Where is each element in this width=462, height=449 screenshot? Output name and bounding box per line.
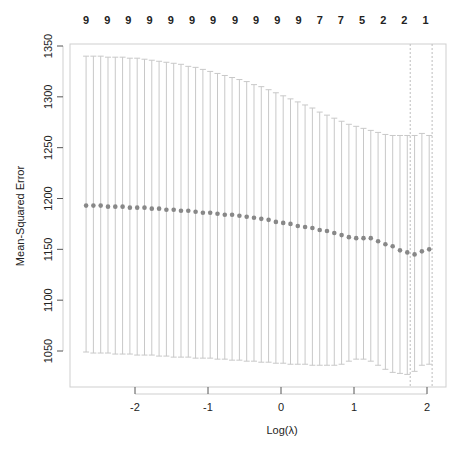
data-point (252, 216, 257, 221)
top-count-label: 9 (125, 14, 131, 26)
data-point (186, 208, 191, 213)
top-count-label: 9 (210, 14, 216, 26)
top-count-label: 9 (83, 14, 89, 26)
y-tick-label: 1150 (42, 238, 54, 262)
top-count-label: 9 (168, 14, 174, 26)
top-count-label: 2 (380, 14, 386, 26)
x-tick-label: -2 (130, 401, 140, 413)
data-point (120, 204, 125, 209)
data-point (222, 212, 227, 217)
x-axis-title: Log(λ) (266, 424, 297, 436)
x-tick-label: -1 (203, 401, 213, 413)
cv-glmnet-plot: 1050110011501200125013001350 -2-1012 999… (0, 0, 462, 449)
top-count-label: 7 (338, 14, 344, 26)
error-bars (83, 56, 432, 374)
y-tick-label: 1100 (42, 288, 54, 312)
x-tick-label: 0 (278, 401, 284, 413)
data-point (142, 205, 147, 210)
data-point (259, 217, 264, 222)
data-point (164, 207, 169, 212)
data-point (84, 203, 89, 208)
data-point (157, 206, 162, 211)
data-point (332, 231, 337, 236)
data-point (361, 236, 366, 241)
data-point (135, 205, 140, 210)
data-point (412, 252, 417, 257)
y-tick-label: 1350 (42, 34, 54, 58)
plot-area-frame (70, 44, 446, 387)
cv-mean-points (84, 203, 432, 256)
data-point (237, 213, 242, 218)
data-point (325, 229, 330, 234)
data-point (398, 248, 403, 253)
data-point (295, 224, 300, 229)
data-point (244, 215, 249, 220)
data-point (171, 207, 176, 212)
y-tick-label: 1250 (42, 135, 54, 159)
y-tick-label: 1050 (42, 339, 54, 363)
data-point (106, 204, 111, 209)
top-count-label: 9 (232, 14, 238, 26)
data-point (149, 206, 154, 211)
top-count-label: 9 (274, 14, 280, 26)
data-point (354, 236, 359, 241)
data-point (98, 203, 103, 208)
data-point (266, 218, 271, 223)
x-axis: -2-1012 (130, 387, 430, 413)
data-point (339, 233, 344, 238)
data-point (179, 208, 184, 213)
x-tick-label: 1 (351, 401, 357, 413)
data-point (427, 247, 432, 252)
data-point (310, 226, 315, 231)
data-point (274, 220, 279, 225)
data-point (193, 209, 198, 214)
top-count-label: 2 (401, 14, 407, 26)
data-point (390, 244, 395, 249)
data-point (91, 203, 96, 208)
top-count-label: 1 (422, 14, 428, 26)
data-point (383, 242, 388, 247)
data-point (420, 249, 425, 254)
data-point (113, 204, 118, 209)
data-point (347, 235, 352, 240)
data-point (288, 222, 293, 227)
data-point (376, 239, 381, 244)
data-point (215, 211, 220, 216)
top-count-label: 9 (189, 14, 195, 26)
data-point (303, 225, 308, 230)
data-point (405, 250, 410, 255)
x-tick-label: 2 (424, 401, 430, 413)
top-axis-nonzero-counts: 99999999999775221 (83, 14, 429, 26)
top-count-label: 5 (359, 14, 365, 26)
data-point (281, 221, 286, 226)
top-count-label: 9 (253, 14, 259, 26)
y-tick-label: 1300 (42, 85, 54, 109)
top-count-label: 9 (147, 14, 153, 26)
top-count-label: 9 (104, 14, 110, 26)
y-axis: 1050110011501200125013001350 (42, 34, 63, 363)
y-tick-label: 1200 (42, 186, 54, 210)
data-point (317, 228, 322, 233)
data-point (230, 212, 235, 217)
data-point (201, 210, 206, 215)
top-count-label: 7 (317, 14, 323, 26)
data-point (368, 236, 373, 241)
y-axis-title: Mean-Squared Error (14, 166, 26, 267)
top-count-label: 9 (295, 14, 301, 26)
data-point (128, 205, 133, 210)
data-point (208, 210, 213, 215)
